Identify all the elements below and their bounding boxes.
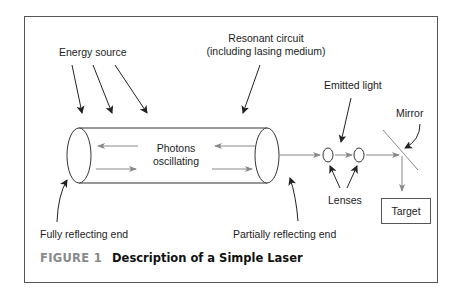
lens-1-icon bbox=[323, 148, 333, 162]
photons-label-line2: oscillating bbox=[136, 155, 216, 168]
energy-source-arrows bbox=[72, 65, 147, 113]
emitted-light-path bbox=[279, 155, 402, 191]
mirror-arrow bbox=[405, 124, 420, 148]
emitted-light-label: Emitted light bbox=[324, 79, 382, 92]
lens-2-icon bbox=[354, 148, 364, 162]
resonant-circuit-arrow bbox=[243, 65, 260, 113]
resonant-circuit-label-line2: (including lasing medium) bbox=[196, 45, 336, 58]
energy-source-label: Energy source bbox=[59, 46, 127, 59]
fully-reflecting-end-label: Fully reflecting end bbox=[40, 228, 128, 241]
figure-caption: FIGURE 1 Description of a Simple Laser bbox=[40, 251, 303, 265]
resonant-circuit-label: Resonant circuit (including lasing mediu… bbox=[196, 32, 336, 58]
resonant-circuit-label-line1: Resonant circuit bbox=[196, 32, 336, 45]
figure-title: Description of a Simple Laser bbox=[112, 251, 303, 265]
mirror-label: Mirror bbox=[396, 107, 423, 120]
emitted-light-arrow bbox=[341, 98, 351, 142]
lenses-arrows bbox=[330, 166, 357, 188]
mirror-icon bbox=[383, 130, 418, 170]
figure-number: FIGURE 1 bbox=[40, 251, 102, 265]
target-box: Target bbox=[381, 198, 431, 224]
fully-reflecting-end-icon bbox=[67, 128, 91, 183]
target-label: Target bbox=[391, 205, 420, 217]
partially-reflecting-end-arrow bbox=[290, 178, 298, 221]
photons-label-line1: Photons bbox=[136, 142, 216, 155]
lenses-label: Lenses bbox=[328, 194, 362, 207]
fully-reflecting-end-arrow bbox=[57, 180, 67, 222]
partially-reflecting-end-icon bbox=[255, 128, 279, 183]
partially-reflecting-end-label: Partially reflecting end bbox=[233, 228, 336, 241]
photons-oscillating-label: Photons oscillating bbox=[136, 142, 216, 168]
